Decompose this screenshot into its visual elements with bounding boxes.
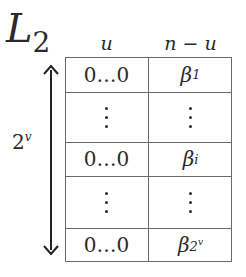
vdots-icon: [189, 107, 192, 128]
beta-subscript: 2: [190, 239, 198, 254]
cell-vdots: [65, 176, 148, 228]
arrow-up-icon: [43, 64, 59, 76]
beta-symbol: β: [181, 63, 193, 87]
arrow-down-icon: [43, 244, 59, 256]
row-count-base: 2: [12, 130, 25, 154]
cell-beta-i: βi: [149, 142, 232, 176]
cell-zeros: 0…0: [65, 142, 148, 176]
column-header-n-minus-u: n − u: [149, 32, 232, 54]
beta-symbol: β: [178, 233, 190, 257]
column-header-u: u: [65, 32, 148, 54]
beta-subscript: 1: [192, 67, 200, 82]
cell-vdots: [65, 92, 148, 142]
cell-zeros: 0…0: [65, 57, 148, 92]
table-title: L2: [6, 8, 50, 48]
row-count-label: 2v: [12, 130, 32, 154]
beta-symbol: β: [183, 147, 195, 171]
beta-subscript: i: [194, 152, 198, 167]
vdots-icon: [189, 192, 192, 213]
cell-beta-2v: β2v: [149, 228, 232, 262]
vdots-icon: [105, 192, 108, 213]
title-main: L: [6, 5, 33, 51]
double-arrow-shaft: [50, 70, 52, 250]
title-subscript: 2: [33, 26, 51, 59]
vdots-icon: [105, 107, 108, 128]
row-count-exponent: v: [25, 130, 32, 144]
cell-beta-1: β1: [149, 57, 232, 92]
beta-subscript-exponent: v: [198, 237, 203, 247]
cell-vdots: [149, 176, 232, 228]
cell-vdots: [149, 92, 232, 142]
cell-zeros: 0…0: [65, 228, 148, 262]
